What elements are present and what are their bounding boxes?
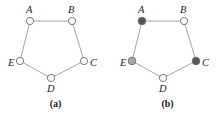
vertex-label-e: E: [7, 57, 15, 68]
figure-panel-a: ABCDE (a): [0, 0, 111, 121]
graph-vertex-b: [180, 17, 187, 24]
vertex-label-d: D: [158, 83, 167, 94]
graph-edge-e-a: [20, 21, 30, 61]
graph-vertex-e: [128, 57, 136, 65]
graph-edge-d-e: [132, 61, 163, 78]
graph-vertex-c: [80, 57, 87, 64]
graph-vertex-c: [192, 57, 200, 65]
vertex-label-e: E: [119, 57, 127, 68]
vertex-label-b: B: [68, 4, 75, 15]
vertex-label-a: A: [25, 4, 33, 15]
graph-vertex-d: [47, 74, 54, 81]
vertex-label-c: C: [90, 57, 98, 68]
graph-vertex-d: [159, 74, 166, 81]
graph-diagram-b: ABCDE: [112, 0, 223, 100]
panel-caption-a: (a): [0, 98, 111, 109]
graph-vertex-a: [138, 17, 146, 25]
panel-caption-b: (b): [112, 98, 223, 109]
vertex-label-d: D: [46, 83, 55, 94]
graph-edge-d-e: [20, 61, 51, 78]
graph-vertex-e: [16, 57, 23, 64]
vertex-label-b: B: [180, 4, 187, 15]
figure-root: ABCDE (a) ABCDE (b): [0, 0, 223, 121]
graph-diagram-a: ABCDE: [0, 0, 111, 100]
vertex-label-a: A: [137, 4, 145, 15]
graph-edge-e-a: [132, 21, 142, 61]
graph-vertex-a: [26, 17, 33, 24]
graph-edge-b-c: [72, 21, 84, 61]
graph-edge-c-d: [51, 61, 84, 78]
vertex-label-c: C: [202, 57, 210, 68]
figure-panel-b: ABCDE (b): [112, 0, 223, 121]
graph-edge-c-d: [163, 61, 196, 78]
graph-edge-b-c: [184, 21, 196, 61]
graph-vertex-b: [68, 17, 75, 24]
